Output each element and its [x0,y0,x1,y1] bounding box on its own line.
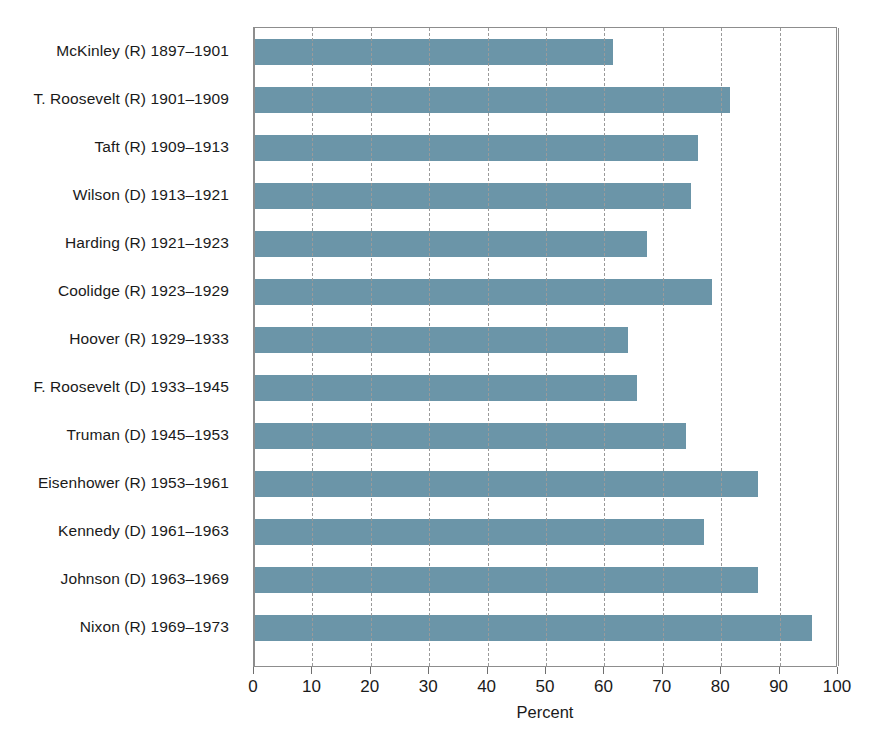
category-label: Hoover (R) 1929–1933 [69,315,229,363]
category-label: Nixon (R) 1969–1973 [80,603,229,651]
category-axis-labels: McKinley (R) 1897–1901T. Roosevelt (R) 1… [0,27,243,667]
category-label: Kennedy (D) 1961–1963 [58,507,229,555]
bar-row [254,76,836,124]
bar-row [254,220,836,268]
x-tick [662,667,663,674]
bar [254,615,812,641]
x-tick [720,667,721,674]
bar [254,39,613,65]
x-tick [487,667,488,674]
x-tick-label: 20 [360,677,379,697]
bars-layer [254,28,836,666]
category-label: Taft (R) 1909–1913 [95,123,230,171]
bar-chart: McKinley (R) 1897–1901T. Roosevelt (R) 1… [0,0,883,743]
bar-row [254,172,836,220]
bar-row [254,460,836,508]
category-label: Truman (D) 1945–1953 [66,411,229,459]
x-tick-label: 60 [594,677,613,697]
x-tick-label: 90 [769,677,788,697]
x-tick [603,667,604,674]
x-tick [545,667,546,674]
x-tick [370,667,371,674]
bar-row [254,316,836,364]
x-tick-label: 0 [248,677,257,697]
x-tick-label: 30 [419,677,438,697]
category-label: Eisenhower (R) 1953–1961 [38,459,229,507]
bar [254,231,647,257]
bar-row [254,124,836,172]
x-tick-label: 100 [823,677,851,697]
x-tick-label: 50 [536,677,555,697]
category-label: Johnson (D) 1963–1969 [61,555,229,603]
x-tick [837,667,838,674]
x-tick [253,667,254,674]
bar-row [254,556,836,604]
bar-row [254,268,836,316]
x-tick [428,667,429,674]
bar [254,375,637,401]
category-label: McKinley (R) 1897–1901 [56,27,229,75]
bar-row [254,412,836,460]
x-tick [779,667,780,674]
x-axis-title: Percent [253,703,837,722]
category-label: F. Roosevelt (D) 1933–1945 [33,363,229,411]
bar [254,279,712,305]
bar-row [254,508,836,556]
bar [254,327,628,353]
x-tick-label: 40 [477,677,496,697]
bar [254,471,758,497]
bar-row [254,28,836,76]
bar [254,183,691,209]
category-label: Harding (R) 1921–1923 [65,219,229,267]
bar [254,567,758,593]
bar [254,87,730,113]
bar [254,423,686,449]
bar [254,135,698,161]
x-tick [311,667,312,674]
category-label: T. Roosevelt (R) 1901–1909 [33,75,229,123]
bar-row [254,364,836,412]
gridline [838,28,839,666]
x-tick-label: 70 [652,677,671,697]
category-label: Wilson (D) 1913–1921 [73,171,229,219]
bar-row [254,604,836,652]
bar [254,519,704,545]
plot-area [253,27,837,667]
x-tick-label: 80 [711,677,730,697]
category-label: Coolidge (R) 1923–1929 [58,267,229,315]
x-tick-label: 10 [302,677,321,697]
